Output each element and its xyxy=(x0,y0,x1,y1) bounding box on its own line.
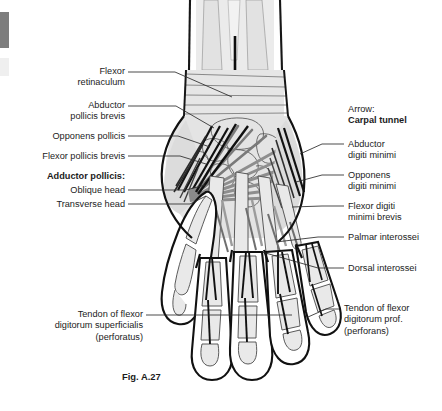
flexor-retinaculum xyxy=(184,70,288,116)
scan-edge-bar-light xyxy=(0,58,9,76)
label-tendon-flexor-digitorum-profundus: Tendon of flexor digitorum prof. (perfor… xyxy=(344,303,440,337)
opponens-digiti-minimi-leader xyxy=(296,175,344,182)
label-abductor-pollicis-brevis: Abductor pollicis brevis xyxy=(18,100,125,123)
label-flexor-retinaculum: Flexor retinaculum xyxy=(18,66,125,89)
label-adductor-pollicis-oblique-head: Oblique head xyxy=(18,185,125,196)
label-dorsal-interossei: Dorsal interossei xyxy=(348,263,440,274)
fingers xyxy=(192,242,341,380)
label-opponens-digiti-minimi: Opponens digiti minimi xyxy=(348,170,440,193)
label-tendon-flexor-digitorum-superficialis: Tendon of flexor digitorum superficialis… xyxy=(8,309,143,343)
scan-edge-bar-dark xyxy=(0,12,9,48)
metacarpal-3 xyxy=(234,172,248,260)
label-arrow-carpal-tunnel-prefix: Arrow: xyxy=(348,104,375,114)
label-arrow-carpal-tunnel: Arrow:Carpal tunnel xyxy=(348,104,440,127)
label-abductor-digiti-minimi: Abductor digiti minimi xyxy=(348,139,440,162)
label-flexor-digiti-minimi-brevis: Flexor digiti minimi brevis xyxy=(348,201,440,224)
label-adductor-pollicis-transverse-head: Transverse head xyxy=(18,199,125,210)
palmar-interossei-leader xyxy=(276,237,344,242)
label-adductor-pollicis-heading: Adductor pollicis: xyxy=(18,171,125,182)
label-opponens-pollicis: Opponens pollicis xyxy=(18,131,125,142)
finger-index xyxy=(192,258,233,380)
anatomical-figure-carpal-tunnel-hand: Flexor retinaculumAbductor pollicis brev… xyxy=(0,0,442,411)
abductor-digiti-minimi-leader xyxy=(300,144,344,154)
label-arrow-carpal-tunnel-value: Carpal tunnel xyxy=(348,115,407,125)
label-flexor-pollicis-brevis: Flexor pollicis brevis xyxy=(12,151,125,162)
label-palmar-interossei: Palmar interossei xyxy=(348,232,440,243)
figure-caption: Fig. A.27 xyxy=(122,371,161,382)
